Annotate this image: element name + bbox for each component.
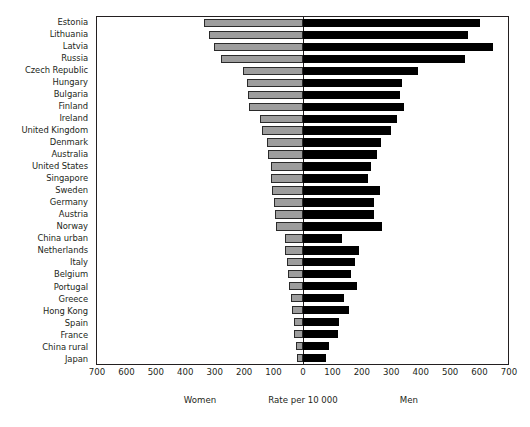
bar-men [303,258,355,266]
bar-row [97,67,508,75]
x-tick-label: 100 [324,368,340,377]
category-label: China rural [0,341,92,353]
category-label: Belgium [0,269,92,281]
caption-men: Men [400,396,418,405]
category-label: France [0,329,92,341]
bar-men [303,342,329,350]
bar-women [271,162,303,170]
bar-women [214,43,303,51]
bar-women [287,258,303,266]
x-tick-label: 300 [383,368,399,377]
bar-women [267,138,303,146]
bar-men [303,103,404,111]
category-label: Spain [0,317,92,329]
x-tick-label: 100 [265,368,281,377]
category-label: Japan [0,353,92,365]
bar-men [303,138,381,146]
category-label: Italy [0,257,92,269]
bar-men [303,162,371,170]
x-tick-label: 500 [148,368,164,377]
caption-rate: Rate per 10 000 [268,396,338,405]
bar-row [97,198,508,206]
x-axis-tick-labels: 7006005004003002001000100200300400500600… [0,368,530,382]
category-label: Lithuania [0,28,92,40]
bar-men [303,31,468,39]
plot-area [96,16,509,365]
x-tick-label: 300 [207,368,223,377]
bar-women [294,318,303,326]
bar-row [97,294,508,302]
bar-row [97,43,508,51]
bar-women [274,198,303,206]
bar-women [268,150,303,158]
category-label: United Kingdom [0,124,92,136]
bar-row [97,55,508,63]
bar-men [303,174,368,182]
x-tick-label: 400 [177,368,193,377]
bar-row [97,282,508,290]
bar-men [303,210,374,218]
bar-men [303,330,338,338]
bar-row [97,138,508,146]
bar-women [260,115,303,123]
bar-men [303,354,326,362]
bar-men [303,43,493,51]
bar-men [303,198,374,206]
category-label: China urban [0,233,92,245]
bar-row [97,174,508,182]
x-tick-label: 400 [413,368,429,377]
x-tick-label: 200 [236,368,252,377]
category-label: United States [0,160,92,172]
bar-row [97,79,508,87]
bar-men [303,91,400,99]
bar-row [97,222,508,230]
caption-women: Women [184,396,216,405]
bar-women [209,31,303,39]
bar-women [271,174,303,182]
category-label: Ireland [0,112,92,124]
bar-row [97,210,508,218]
bar-row [97,246,508,254]
x-tick-label: 600 [118,368,134,377]
bar-women [247,79,303,87]
bar-men [303,79,402,87]
x-axis-captions: WomenRate per 10 000Men [0,396,530,410]
bar-row [97,91,508,99]
bar-women [276,222,303,230]
bar-women [291,294,303,302]
category-label: Greece [0,293,92,305]
bar-row [97,306,508,314]
bar-women [221,55,303,63]
category-label: Norway [0,221,92,233]
category-label: Portugal [0,281,92,293]
bar-women [248,91,303,99]
bar-row [97,103,508,111]
category-label: Russia [0,52,92,64]
bar-row [97,258,508,266]
bar-row [97,31,508,39]
category-label: Hong Kong [0,305,92,317]
category-axis-labels: EstoniaLithuaniaLatviaRussiaCzech Republ… [0,16,92,365]
bar-row [97,342,508,350]
bar-women [288,270,303,278]
bar-women [204,19,303,27]
x-tick-label: 500 [442,368,458,377]
bar-women [296,342,303,350]
population-pyramid-chart: EstoniaLithuaniaLatviaRussiaCzech Republ… [0,0,530,427]
bar-men [303,234,342,242]
bar-men [303,222,382,230]
bar-row [97,150,508,158]
x-tick-label: 600 [471,368,487,377]
bar-row [97,162,508,170]
category-label: Germany [0,196,92,208]
bar-women [243,67,303,75]
category-label: Denmark [0,136,92,148]
bar-men [303,270,351,278]
category-label: Sweden [0,184,92,196]
bar-men [303,294,344,302]
category-label: Bulgaria [0,88,92,100]
bar-women [292,306,303,314]
bar-row [97,354,508,362]
category-label: Netherlands [0,245,92,257]
category-label: Hungary [0,76,92,88]
